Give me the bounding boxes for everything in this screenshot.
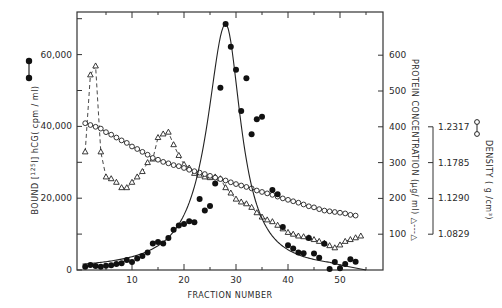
svg-text:1.2317: 1.2317 [438, 122, 470, 132]
left-axis-ticks: 020,00040,00060,000 [41, 19, 83, 275]
svg-text:600: 600 [389, 50, 406, 60]
density-axis-title: DENSITY ( g /cm³) [484, 140, 493, 220]
left-axis-title: BOUND [125I] hCG( cpm / ml) [29, 86, 40, 215]
x-axis-title: FRACTION NUMBER [187, 291, 272, 300]
chart-canvas: 1020304050 020,00040,00060,000 100200300… [0, 0, 502, 308]
svg-text:0: 0 [66, 265, 72, 275]
density-series [83, 121, 358, 218]
svg-text:20: 20 [178, 275, 190, 285]
svg-text:500: 500 [389, 86, 406, 96]
right-axis-ticks: 100200300400500600 [378, 50, 406, 239]
svg-text:60,000: 60,000 [41, 50, 73, 60]
svg-text:PROTEIN CONCENTRATION (µg/ ml): PROTEIN CONCENTRATION (µg/ ml) △---△ [410, 59, 419, 242]
svg-text:BOUND [125I] hCG( cpm / ml): BOUND [125I] hCG( cpm / ml) [29, 86, 40, 215]
svg-text:40,000: 40,000 [41, 121, 73, 131]
svg-text:50: 50 [334, 275, 346, 285]
protein-series [82, 63, 363, 250]
svg-text:1.1785: 1.1785 [438, 158, 470, 168]
svg-text:DENSITY ( g /cm³): DENSITY ( g /cm³) [484, 140, 493, 220]
bound-series [82, 21, 366, 272]
svg-text:200: 200 [389, 193, 406, 203]
density-scale: 1.23171.17851.12901.0829 [428, 122, 470, 239]
svg-text:1.1290: 1.1290 [438, 193, 470, 203]
svg-text:400: 400 [389, 122, 406, 132]
svg-text:100: 100 [389, 229, 406, 239]
right-axis-title: PROTEIN CONCENTRATION (µg/ ml) △---△ [410, 59, 419, 242]
svg-text:1.0829: 1.0829 [438, 229, 470, 239]
density-legend-symbol-icon [475, 120, 480, 137]
svg-text:10: 10 [126, 275, 138, 285]
left-legend-symbol-icon [26, 58, 32, 81]
svg-text:20,000: 20,000 [41, 193, 73, 203]
svg-text:300: 300 [389, 158, 406, 168]
svg-text:30: 30 [230, 275, 242, 285]
svg-text:40: 40 [282, 275, 294, 285]
